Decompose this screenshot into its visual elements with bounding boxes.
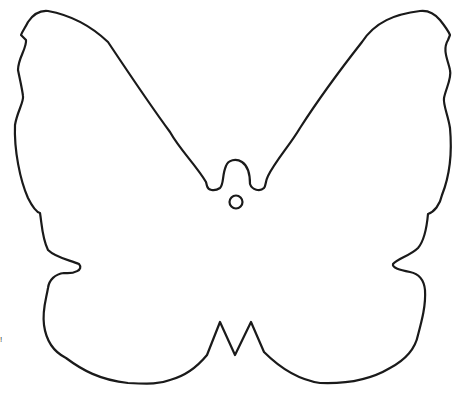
edge-mark: !: [0, 336, 3, 344]
butterfly-figure: [0, 0, 465, 397]
hanging-hole: [230, 196, 243, 209]
